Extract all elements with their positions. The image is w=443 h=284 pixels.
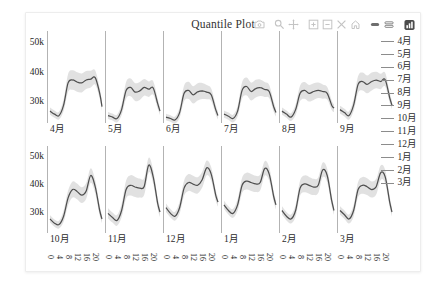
zoom-in-icon[interactable]	[308, 19, 319, 30]
facet-plot-area[interactable]	[221, 31, 279, 123]
facet-label: 12月	[166, 234, 186, 245]
facet-panel: 1月048121620	[221, 146, 279, 275]
chart-card: Quantile Plot 4月5月6月7月8月9月10月11月12月1月2月3…	[25, 12, 421, 272]
legend-line-swatch	[381, 93, 394, 94]
legend-item-label: 12月	[398, 140, 418, 150]
x-tick-label: 16	[198, 247, 206, 267]
x-axis-ticks: 048121620	[221, 247, 279, 273]
legend-item[interactable]: 2月	[381, 164, 418, 177]
quantile-band	[108, 158, 160, 226]
facet-plot-area[interactable]	[279, 31, 337, 123]
quantile-band	[166, 82, 218, 124]
legend-item-label: 3月	[398, 178, 413, 188]
facet-plot-area[interactable]	[47, 31, 105, 123]
legend-item[interactable]: 8月	[381, 87, 418, 100]
legend-item-label: 2月	[398, 166, 413, 176]
zoom-icon[interactable]	[274, 19, 285, 30]
x-tick-label: 0	[336, 247, 344, 267]
facet-label: 5月	[108, 124, 123, 135]
legend-item-label: 5月	[398, 50, 413, 60]
plotly-logo-icon[interactable]	[404, 19, 415, 30]
hover-compare-icon[interactable]	[384, 19, 395, 30]
x-tick-label: 0	[46, 247, 54, 267]
x-axis-ticks: 048121620	[105, 247, 163, 273]
legend-item[interactable]: 4月	[381, 35, 418, 48]
y-tick-label: 40k	[24, 180, 44, 190]
x-tick-label: 12	[363, 247, 371, 267]
x-tick-label: 20	[265, 247, 273, 267]
quantile-band	[108, 78, 160, 122]
modebar	[254, 19, 415, 30]
x-tick-label: 20	[149, 247, 157, 267]
legend-line-swatch	[381, 54, 394, 55]
legend-item[interactable]: 5月	[381, 48, 418, 61]
quantile-band	[282, 82, 334, 121]
reset-axes-icon[interactable]	[350, 19, 361, 30]
facet-plot-area[interactable]	[163, 146, 221, 233]
facet-panel: 11月048121620	[105, 146, 163, 275]
quantile-band	[166, 160, 218, 220]
hover-closest-icon[interactable]	[370, 19, 381, 30]
legend-item-label: 1月	[398, 153, 413, 163]
facet-panel: 5月	[105, 31, 163, 139]
autoscale-icon[interactable]	[336, 19, 347, 30]
quantile-band	[50, 168, 102, 229]
facet-grid: 50k40k30k4月5月6月7月8月9月50k40k30k10月0481216…	[47, 31, 395, 275]
legend-line-swatch	[381, 131, 394, 132]
legend-item[interactable]: 9月	[381, 99, 418, 112]
quantile-band	[224, 78, 276, 123]
y-tick-label: 40k	[24, 68, 44, 78]
zoom-out-icon[interactable]	[322, 19, 333, 30]
legend-item-label: 11月	[398, 127, 417, 137]
x-axis-ticks: 048121620	[163, 247, 221, 273]
camera-icon[interactable]	[254, 19, 265, 30]
legend-item-label: 4月	[398, 37, 413, 47]
facet-plot-area[interactable]	[105, 146, 163, 233]
facet-label: 7月	[224, 124, 239, 135]
legend-item[interactable]: 6月	[381, 61, 418, 74]
x-tick-label: 8	[180, 247, 188, 267]
legend-item-label: 9月	[398, 101, 413, 111]
legend-item[interactable]: 11月	[381, 125, 418, 138]
legend: 4月5月6月7月8月9月10月11月12月1月2月3月	[381, 35, 418, 190]
x-tick-label: 8	[354, 247, 362, 267]
x-tick-label: 12	[73, 247, 81, 267]
x-tick-label: 16	[314, 247, 322, 267]
facet-plot-area[interactable]	[163, 31, 221, 123]
x-tick-label: 0	[278, 247, 286, 267]
legend-item[interactable]: 10月	[381, 112, 418, 125]
facet-label: 1月	[224, 234, 239, 245]
legend-item[interactable]: 1月	[381, 151, 418, 164]
facet-panel: 8月	[279, 31, 337, 139]
facet-plot-area[interactable]	[47, 146, 105, 233]
y-tick-label: 50k	[24, 152, 44, 162]
legend-item-label: 6月	[398, 62, 413, 72]
legend-item[interactable]: 7月	[381, 74, 418, 87]
facet-panel: 12月048121620	[163, 146, 221, 275]
legend-item-label: 8月	[398, 88, 413, 98]
facet-panel: 4月	[47, 31, 105, 139]
x-tick-label: 0	[220, 247, 228, 267]
x-tick-label: 4	[171, 247, 179, 267]
facet-plot-area[interactable]	[105, 31, 163, 123]
legend-line-swatch	[381, 170, 394, 171]
legend-item-label: 7月	[398, 75, 413, 85]
facet-plot-area[interactable]	[221, 146, 279, 233]
facet-panel: 7月	[221, 31, 279, 139]
facet-plot-area[interactable]	[279, 146, 337, 233]
x-tick-label: 12	[247, 247, 255, 267]
legend-item[interactable]: 3月	[381, 177, 418, 190]
x-tick-label: 4	[345, 247, 353, 267]
x-tick-label: 4	[229, 247, 237, 267]
facet-label: 6月	[166, 124, 181, 135]
facet-label: 3月	[340, 234, 355, 245]
y-tick-label: 30k	[24, 97, 44, 107]
facet-panel: 6月	[163, 31, 221, 139]
facet-label: 11月	[108, 234, 127, 245]
x-tick-label: 0	[162, 247, 170, 267]
pan-icon[interactable]	[288, 19, 299, 30]
legend-item-label: 10月	[398, 114, 418, 124]
x-tick-label: 12	[131, 247, 139, 267]
x-tick-label: 20	[381, 247, 389, 267]
legend-item[interactable]: 12月	[381, 138, 418, 151]
